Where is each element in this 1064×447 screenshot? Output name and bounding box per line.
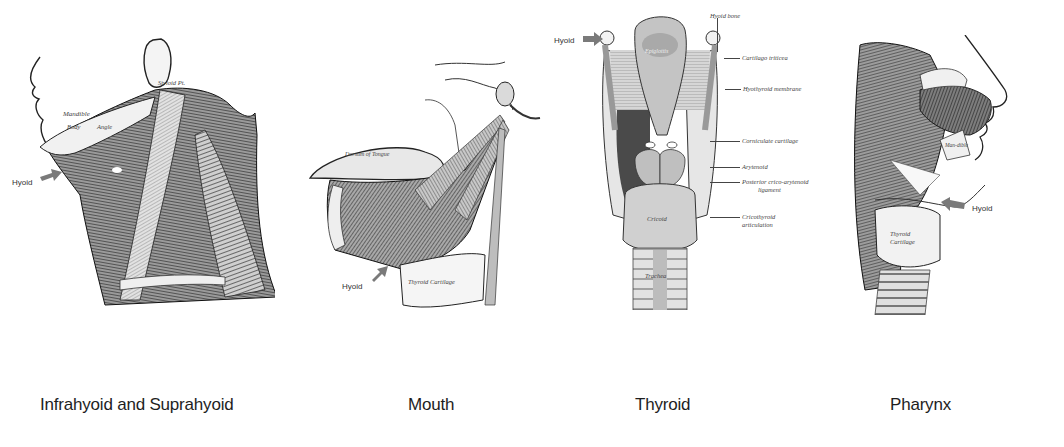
label-cricothyroid: Cricothyroid xyxy=(742,213,775,220)
label-corniculate-cartilage: Corniculate cartilage xyxy=(742,137,798,144)
neck-muscles-illustration: Mandible Body Angle Styloid Pt. xyxy=(25,35,275,310)
leader-cartilago-triticea xyxy=(724,58,740,59)
caption-mouth: Mouth xyxy=(408,395,454,415)
label-hyoid-bone: Hyoid bone xyxy=(710,12,740,19)
hyoid-label: Hyoid xyxy=(554,36,574,45)
hyoid-pointer-arrow-icon xyxy=(40,167,62,183)
tongue-muscles-illustration: Dorsum of Tongue Thyroid Cartilage xyxy=(305,60,545,315)
label-mandible: Man-dible xyxy=(945,142,968,148)
hyoid-pointer-arrow-icon xyxy=(941,197,965,213)
label-trachea: Trachea xyxy=(645,272,666,279)
label-thyroid-cartilage: Thyroid Cartilage xyxy=(408,278,455,285)
panel-mouth: Dorsum of Tongue Thyroid Cartilage Hyoid… xyxy=(300,0,550,447)
panel-infrahyoid-suprahyoid: Mandible Body Angle Styloid Pt. Hyoid In… xyxy=(0,0,300,447)
larynx-illustration: Epiglottis Cricoid Trachea xyxy=(595,10,725,310)
leader-posterior-crico-arytenoid xyxy=(710,182,740,183)
caption-pharynx: Pharynx xyxy=(890,395,951,415)
label-arytenoid: Arytenoid xyxy=(742,163,768,170)
leader-cricothyroid xyxy=(710,217,740,218)
pharynx-drawing xyxy=(845,35,1045,315)
label-cartilago-triticea: Cartilago triticea xyxy=(742,54,788,61)
label-cricoid: Cricoid xyxy=(647,215,667,222)
hyoid-label: Hyoid xyxy=(342,282,362,291)
panel-pharynx: Maxilla Man-dible Thyroid Cartilage Hyoi… xyxy=(810,0,1064,447)
panel-thyroid: Epiglottis Cricoid Trachea Hyoid bone Ca… xyxy=(550,0,810,447)
label-maxilla: Maxilla xyxy=(925,79,945,86)
pharynx-illustration: Maxilla Man-dible Thyroid Cartilage xyxy=(845,35,1045,315)
label-hyothyroid-membrane: Hyothyroid membrane xyxy=(743,85,801,92)
label-dorsum-of-tongue: Dorsum of Tongue xyxy=(345,151,389,158)
hyoid-label: Hyoid xyxy=(12,178,32,187)
tongue-muscles-drawing xyxy=(305,60,545,315)
leader-hyothyroid-membrane xyxy=(725,89,741,90)
neck-muscles-drawing xyxy=(25,35,275,310)
label-articulation: articulation xyxy=(742,221,773,228)
label-epiglottis: Epiglottis xyxy=(645,48,668,55)
leader-arytenoid xyxy=(710,167,740,168)
hyoid-pointer-arrow-icon xyxy=(583,32,603,46)
caption-infrahyoid-suprahyoid: Infrahyoid and Suprahyoid xyxy=(40,395,233,415)
label-body: Body xyxy=(67,123,80,130)
label-angle: Angle xyxy=(97,123,112,130)
hyoid-pointer-arrow-icon xyxy=(370,264,390,284)
hyoid-label: Hyoid xyxy=(972,204,992,213)
caption-thyroid: Thyroid xyxy=(635,395,690,415)
label-mandible: Mandible xyxy=(63,111,90,119)
label-cartilage: Cartilage xyxy=(890,238,915,245)
label-ligament: ligament xyxy=(758,186,781,193)
larynx-drawing xyxy=(595,10,725,310)
leader-corniculate xyxy=(710,141,740,142)
label-styloid: Styloid Pt. xyxy=(158,79,185,86)
leader-hyoid-bone xyxy=(717,18,718,52)
label-thyroid: Thyroid xyxy=(890,230,910,237)
label-posterior-crico-arytenoid: Posterior crico-arytenoid xyxy=(742,178,809,185)
